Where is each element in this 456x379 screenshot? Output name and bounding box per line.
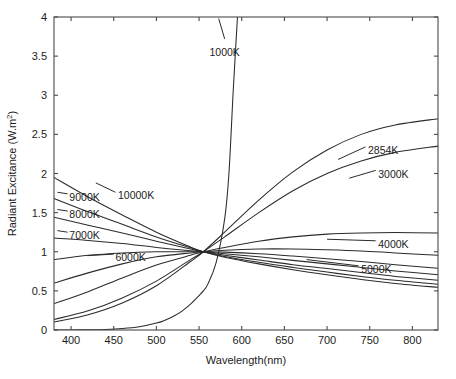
x-tick-label: 400 [62,334,80,346]
x-tick-label: 650 [275,334,293,346]
leader-line-8000k [57,209,67,211]
x-tick-label: 750 [361,334,379,346]
x-tick-label: 800 [403,334,421,346]
y-tick-label: 3 [41,89,47,101]
leader-line-2854k [338,147,365,160]
y-tick-label: 3.5 [32,50,47,62]
x-tick-label: 700 [318,334,336,346]
y-tick-label: 2.5 [32,128,47,140]
radiant-excitance-chart-figure: 40045050055060065070075080000.511.522.53… [0,0,456,379]
curve-label-2854k: 2854K [368,144,398,156]
leader-line-9000k [57,192,67,194]
x-tick-label: 600 [233,334,251,346]
tick-labels-layer: 40045050055060065070075080000.511.522.53… [32,11,422,346]
y-tick-label: 1.5 [32,207,47,219]
x-axis-title: Wavelength(nm) [206,354,286,366]
x-tick-label: 500 [147,334,165,346]
y-tick-label: 4 [41,11,47,23]
curve-label-6000k: 6000K [115,251,145,263]
curve-label-7000k: 7000K [69,229,99,241]
y-axis-title: Radiant Excitance (W.m2) [5,111,18,237]
curve-label-5000k: 5000K [361,263,391,275]
y-tick-label: 0.5 [32,285,47,297]
curve-label-10000k: 10000K [118,189,154,201]
curve-label-9000k: 9000K [69,191,99,203]
curve-label-4000k: 4000K [378,238,408,250]
chart-canvas: 40045050055060065070075080000.511.522.53… [0,0,456,379]
curve-label-1000k: 1000K [209,46,239,58]
curve-label-3000k: 3000K [378,168,408,180]
x-tick-label: 550 [190,334,208,346]
curve-label-8000k: 8000K [69,208,99,220]
x-tick-label: 450 [105,334,123,346]
leader-line-7000k [57,231,67,233]
leader-line-1000k [219,19,225,39]
leader-line-3000k [349,170,375,178]
y-tick-label: 0 [41,324,47,336]
y-tick-label: 1 [41,246,47,258]
leader-line-4000k [327,239,376,241]
curve-1000k [54,17,237,330]
y-tick-label: 2 [41,168,47,180]
